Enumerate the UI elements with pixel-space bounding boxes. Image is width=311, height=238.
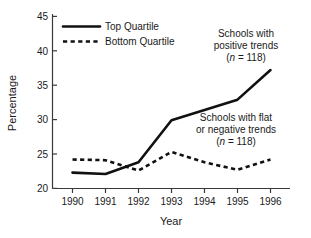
- x-tick-label-1993: 1993: [160, 196, 183, 207]
- annotation-positive-line1: Schools with: [218, 28, 274, 39]
- x-axis-title: Year: [160, 215, 183, 227]
- x-tick-label-1996: 1996: [259, 196, 282, 207]
- y-tick-label-30: 30: [37, 114, 49, 125]
- annotation-positive-n-value: = 118): [235, 52, 266, 63]
- x-tick-label-1995: 1995: [226, 196, 249, 207]
- annotation-positive-sample-size: (n = 118): [226, 52, 266, 63]
- series-line-bottom-quartile: [73, 152, 271, 171]
- chart-legend: Top Quartile Bottom Quartile: [63, 21, 175, 47]
- annotation-positive-trends: Schools with positive trends (n = 118): [214, 28, 278, 63]
- line-chart: 45 40 35 30 25 20 1990 1991 1992 1993 19…: [0, 0, 311, 238]
- x-tick-label-1990: 1990: [61, 196, 84, 207]
- x-tick-label-1992: 1992: [127, 196, 150, 207]
- x-tick-labels: 1990 1991 1992 1993 1994 1995 1996: [61, 196, 282, 207]
- annotation-flat-sample-size: (n = 118): [216, 136, 256, 147]
- chart-figure: 45 40 35 30 25 20 1990 1991 1992 1993 19…: [0, 0, 311, 238]
- y-tick-marks: [53, 16, 58, 188]
- annotation-flat-line2: or negative trends: [196, 124, 276, 135]
- y-tick-labels: 45 40 35 30 25 20: [37, 11, 49, 194]
- y-tick-label-45: 45: [37, 11, 49, 22]
- annotation-flat-n-value: = 118): [225, 136, 256, 147]
- legend-label-top-quartile: Top Quartile: [105, 21, 159, 32]
- y-tick-label-25: 25: [37, 149, 49, 160]
- y-axis-title: Percentage: [6, 75, 18, 131]
- legend-label-bottom-quartile: Bottom Quartile: [105, 36, 175, 47]
- y-tick-label-20: 20: [37, 183, 49, 194]
- y-tick-label-35: 35: [37, 80, 49, 91]
- x-tick-label-1991: 1991: [94, 196, 117, 207]
- annotation-flat-line1: Schools with flat: [200, 112, 272, 123]
- y-tick-label-40: 40: [37, 46, 49, 57]
- annotation-positive-line2: positive trends: [214, 40, 278, 51]
- x-tick-label-1994: 1994: [193, 196, 216, 207]
- x-tick-marks: [73, 189, 271, 194]
- annotation-flat-negative-trends: Schools with flat or negative trends (n …: [196, 112, 276, 147]
